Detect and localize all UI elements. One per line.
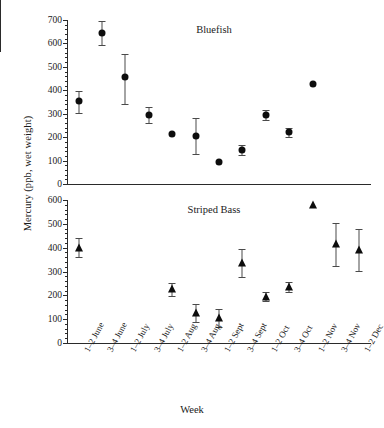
y-axis-minor-tick xyxy=(65,118,68,119)
y-axis-tick xyxy=(63,272,68,273)
x-axis-tick-label: 1–2 July xyxy=(128,322,151,354)
data-point-marker xyxy=(122,74,129,81)
y-axis-minor-tick xyxy=(65,214,68,215)
x-axis-tick-label: 1–2 Sept xyxy=(222,321,246,354)
y-axis-minor-tick xyxy=(65,210,68,211)
y-axis-minor-tick xyxy=(65,128,68,129)
data-point-marker xyxy=(286,129,293,136)
data-point-marker xyxy=(309,200,317,208)
error-bar-cap xyxy=(332,266,339,267)
y-axis-minor-tick xyxy=(65,324,68,325)
y-axis-minor-tick xyxy=(65,276,68,277)
data-point-marker xyxy=(355,246,363,254)
y-axis-minor-tick xyxy=(65,310,68,311)
y-axis-minor-tick xyxy=(65,233,68,234)
y-axis-minor-tick xyxy=(65,291,68,292)
y-axis-line xyxy=(67,20,68,184)
y-axis-tick-label: 300 xyxy=(26,267,62,277)
y-axis-minor-tick xyxy=(65,281,68,282)
y-axis-minor-tick xyxy=(65,262,68,263)
x-axis-tick-label: 3–4 Nov xyxy=(339,321,363,353)
data-point-marker xyxy=(99,29,106,36)
error-bar-cap xyxy=(75,238,82,239)
panel-title: Striped Bass xyxy=(188,204,241,215)
error-bar-cap xyxy=(356,229,363,230)
x-axis-tick-label: 1–2 Dec xyxy=(362,322,384,353)
data-point-marker xyxy=(262,111,269,118)
data-point-marker xyxy=(192,309,200,317)
x-axis-tick-label: 3–4 Oct xyxy=(292,324,314,354)
error-bar-cap xyxy=(356,271,363,272)
data-point-marker xyxy=(75,97,82,104)
y-axis-minor-tick xyxy=(65,156,68,157)
y-axis-tick xyxy=(63,67,68,68)
error-bar-cap xyxy=(286,292,293,293)
error-bar-cap xyxy=(122,54,129,55)
y-axis-minor-tick xyxy=(65,205,68,206)
error-bar-cap xyxy=(262,120,269,121)
y-axis-minor-tick xyxy=(65,165,68,166)
y-axis-tick-label: 400 xyxy=(26,243,62,253)
y-axis-minor-tick xyxy=(65,300,68,301)
x-axis-tick-label: 1–2 Aug xyxy=(175,322,198,354)
y-axis-tick-label: 0 xyxy=(26,338,62,348)
x-axis-tick-label: 1–2 Oct xyxy=(269,324,291,354)
y-axis-minor-tick xyxy=(65,57,68,58)
y-axis-minor-tick xyxy=(65,123,68,124)
y-axis-minor-tick xyxy=(65,229,68,230)
data-point-marker xyxy=(239,147,246,154)
y-axis-tick xyxy=(63,43,68,44)
x-axis-line xyxy=(67,184,371,185)
y-axis-minor-tick xyxy=(65,86,68,87)
y-axis-minor-tick xyxy=(65,175,68,176)
y-axis-tick-label: 200 xyxy=(26,290,62,300)
error-bar-cap xyxy=(216,309,223,310)
y-axis-tick xyxy=(63,224,68,225)
error-bar-cap xyxy=(192,118,199,119)
panel-striped-bass: 0100200300400500600Striped Bass xyxy=(0,0,1,52)
error-bar-cap xyxy=(122,104,129,105)
error-bar-cap xyxy=(75,113,82,114)
data-point-marker xyxy=(169,130,176,137)
data-point-marker xyxy=(285,283,293,291)
y-axis-minor-tick xyxy=(65,170,68,171)
y-axis-minor-tick xyxy=(65,109,68,110)
y-axis-tick xyxy=(63,184,68,185)
error-bar-cap xyxy=(262,301,269,302)
y-axis-tick xyxy=(63,200,68,201)
data-point-marker xyxy=(145,111,152,118)
error-bar-cap xyxy=(99,45,106,46)
y-axis-minor-tick xyxy=(65,142,68,143)
y-axis-minor-tick xyxy=(65,179,68,180)
data-point-marker xyxy=(168,285,176,293)
y-axis-tick xyxy=(63,20,68,21)
y-axis-tick-label: 600 xyxy=(26,38,62,48)
y-axis-minor-tick xyxy=(65,39,68,40)
y-axis-tick xyxy=(63,114,68,115)
y-axis-tick-label: 100 xyxy=(26,314,62,324)
error-bar-cap xyxy=(169,296,176,297)
y-axis-tick-label: 300 xyxy=(26,109,62,119)
y-axis-minor-tick xyxy=(65,338,68,339)
x-axis-tick xyxy=(0,48,1,52)
y-axis-tick-label: 600 xyxy=(26,195,62,205)
y-axis-minor-tick xyxy=(65,243,68,244)
y-axis-tick-label: 400 xyxy=(26,85,62,95)
y-axis-tick-label: 700 xyxy=(26,15,62,25)
y-axis-minor-tick xyxy=(65,151,68,152)
y-axis-minor-tick xyxy=(65,81,68,82)
error-bar-cap xyxy=(75,91,82,92)
x-axis-title: Week xyxy=(0,404,384,415)
y-axis-tick xyxy=(63,248,68,249)
error-bar-cap xyxy=(192,154,199,155)
data-point-marker xyxy=(262,292,270,300)
y-axis-tick-label: 0 xyxy=(26,179,62,189)
x-axis-tick-label: 1–2 June xyxy=(82,321,106,354)
error-bar-cap xyxy=(99,21,106,22)
data-point-marker xyxy=(192,132,199,139)
y-axis-tick xyxy=(63,295,68,296)
y-axis-minor-tick xyxy=(65,147,68,148)
error-bar-cap xyxy=(286,137,293,138)
error-bar-cap xyxy=(239,277,246,278)
error-bar-cap xyxy=(169,283,176,284)
